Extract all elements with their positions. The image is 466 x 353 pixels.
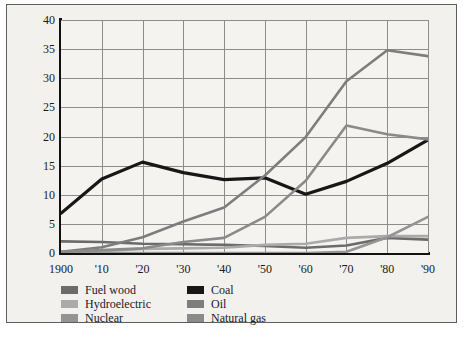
- series-lines: [61, 20, 428, 253]
- gridline-vertical: [428, 20, 429, 253]
- legend-swatch: [61, 300, 78, 308]
- y-tick-label: 5: [21, 216, 55, 231]
- x-tick-label: '80: [380, 262, 394, 277]
- figure: Quadrillion Btu 0510152025303540 1900'10…: [0, 0, 466, 353]
- x-tick-label: 1900: [49, 262, 73, 277]
- legend-item-natural-gas: Natural gas: [187, 311, 305, 325]
- legend-label: Natural gas: [211, 312, 266, 324]
- series-line-coal: [61, 140, 428, 213]
- legend-item-nuclear: Nuclear: [61, 311, 179, 325]
- legend-swatch: [61, 314, 78, 322]
- x-tick-label: '40: [217, 262, 231, 277]
- legend-label: Coal: [211, 284, 234, 296]
- y-tick-label: 40: [21, 13, 55, 28]
- legend-swatch: [187, 300, 204, 308]
- legend-label: Nuclear: [85, 312, 123, 324]
- y-tick-label: 0: [21, 246, 55, 261]
- y-tick-label: 35: [21, 42, 55, 57]
- x-tick-label: '70: [339, 262, 353, 277]
- y-tick-label: 20: [21, 129, 55, 144]
- legend-item-coal: Coal: [187, 283, 305, 297]
- legend: Fuel woodCoalHydroelectricOilNuclearNatu…: [61, 283, 361, 325]
- legend-label: Oil: [211, 298, 226, 310]
- x-tick-label: '30: [176, 262, 190, 277]
- y-tick-label: 10: [21, 187, 55, 202]
- legend-swatch: [187, 314, 204, 322]
- y-tick-label: 15: [21, 158, 55, 173]
- legend-item-fuel-wood: Fuel wood: [61, 283, 179, 297]
- x-tick-label: '10: [95, 262, 109, 277]
- plot-area: [61, 20, 428, 253]
- x-tick-label: '60: [299, 262, 313, 277]
- series-line-oil: [61, 50, 428, 252]
- series-line-natural-gas: [61, 125, 428, 251]
- x-tick-label: '50: [258, 262, 272, 277]
- legend-swatch: [61, 286, 78, 294]
- legend-label: Hydroelectric: [85, 298, 151, 310]
- x-tick-label: '90: [421, 262, 435, 277]
- x-tick-label: '20: [135, 262, 149, 277]
- y-tick-label: 25: [21, 100, 55, 115]
- legend-item-hydroelectric: Hydroelectric: [61, 297, 179, 311]
- legend-swatch: [187, 286, 204, 294]
- legend-item-oil: Oil: [187, 297, 305, 311]
- y-tick-label: 30: [21, 71, 55, 86]
- legend-label: Fuel wood: [85, 284, 136, 296]
